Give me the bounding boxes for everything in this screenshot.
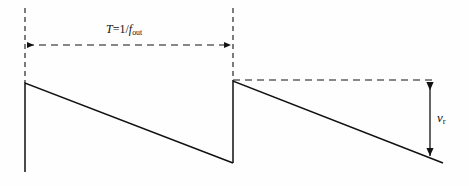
ripple-subscript: r [443, 116, 446, 126]
sawtooth-ripple-figure: T=1/fout vr [0, 0, 469, 186]
period-frequency-subscript: out [132, 28, 142, 37]
period-label: T=1/fout [106, 22, 142, 37]
period-symbol: T [106, 22, 113, 36]
sawtooth-cycle-2 [233, 81, 443, 163]
sawtooth-cycle-1 [25, 83, 233, 172]
period-equals: =1/ [113, 22, 129, 36]
waveform-plot [0, 0, 469, 186]
ripple-voltage-label: vr [437, 110, 446, 126]
